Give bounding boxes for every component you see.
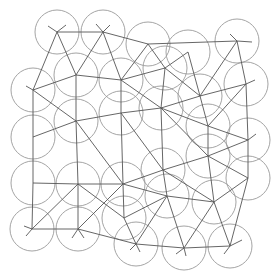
mesh-edge xyxy=(165,52,188,68)
mesh-edge xyxy=(103,32,121,80)
mesh-edge xyxy=(136,244,184,248)
boundary-stub xyxy=(103,25,110,32)
boundary-stub xyxy=(24,226,32,229)
mesh-edge xyxy=(167,196,214,202)
boundary-stub xyxy=(48,26,57,32)
mesh-edge xyxy=(237,41,246,84)
mesh-edge xyxy=(208,156,248,178)
mesh-edge xyxy=(76,121,123,184)
mesh-edge xyxy=(161,108,208,126)
mesh-edge xyxy=(163,170,214,202)
mesh-edge xyxy=(208,156,214,202)
boundary-stub xyxy=(26,229,32,236)
boundary-stub xyxy=(176,248,184,254)
mesh-edge xyxy=(167,196,184,248)
boundary-stub xyxy=(130,244,136,250)
mesh-edge xyxy=(123,184,124,218)
boundary-stub xyxy=(184,248,186,256)
mesh-edge xyxy=(200,96,208,126)
mesh-edge xyxy=(123,170,163,184)
mesh-edge xyxy=(184,246,230,248)
mesh-edge xyxy=(161,108,163,170)
mesh-edge xyxy=(32,183,33,229)
boundary-stub xyxy=(136,244,140,252)
boundary-stub xyxy=(224,246,230,254)
mesh-edge xyxy=(32,184,78,229)
mesh-edge xyxy=(76,113,121,121)
mesh-edge xyxy=(103,32,148,44)
mesh-edge xyxy=(78,184,124,218)
mesh-edge xyxy=(184,202,214,248)
mesh-edge xyxy=(148,41,237,44)
mesh-edge xyxy=(165,68,200,96)
boundary-stub xyxy=(96,24,103,32)
boundary-stub xyxy=(230,34,237,41)
mesh-edge xyxy=(208,140,248,156)
mesh-edge xyxy=(161,68,165,108)
mesh-edge xyxy=(33,183,78,184)
circle-layer xyxy=(10,10,270,270)
mesh-edge xyxy=(78,184,123,229)
circle-packing-diagram xyxy=(0,0,280,274)
boundary-stub xyxy=(237,41,252,42)
boundary-stub xyxy=(246,80,255,84)
mesh-edge xyxy=(208,126,248,140)
mesh-edge xyxy=(230,178,248,246)
mesh-edge xyxy=(163,156,208,170)
boundary-stub xyxy=(248,134,256,140)
mesh-edge xyxy=(121,113,163,170)
mesh-edge xyxy=(121,113,123,184)
boundary-stub xyxy=(57,25,66,32)
mesh-edge xyxy=(246,84,248,140)
mesh-edge xyxy=(121,108,161,113)
mesh-edge xyxy=(76,121,78,184)
boundary-stub xyxy=(72,229,78,238)
mesh-edge xyxy=(76,75,121,80)
boundary-stub xyxy=(26,86,33,90)
